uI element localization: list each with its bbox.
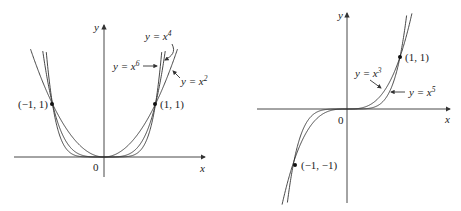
point-label-neg1-neg1: (−1, −1): [301, 159, 338, 172]
point-1-1: [398, 55, 402, 59]
arrow-x3: [370, 80, 381, 88]
origin-label: 0: [93, 161, 99, 173]
point-label-1-1: (1, 1): [405, 51, 429, 64]
arrow-x4: [165, 44, 174, 60]
point-1-1: [153, 102, 157, 106]
label-x4: y = x4: [144, 29, 172, 42]
point-label-neg1-1: (−1, 1): [18, 98, 48, 111]
point-neg1-1: [50, 102, 54, 106]
label-x3: y = x3: [354, 66, 382, 79]
label-x6: y = x6: [112, 59, 140, 72]
x-axis-label: x: [199, 162, 205, 174]
point-neg1-neg1: [293, 163, 297, 167]
label-x5: y = x5: [408, 85, 436, 98]
even-powers-graph: x y 0 (−1, 1) (1, 1) y = x4 y = x6 y = x…: [14, 21, 208, 177]
origin-label: 0: [338, 114, 344, 126]
arrow-x2: [173, 71, 180, 78]
point-label-1-1: (1, 1): [160, 98, 184, 111]
y-axis-label: y: [337, 9, 343, 21]
x-axis-label: x: [444, 113, 450, 125]
power-functions-diagram: x y 0 (−1, 1) (1, 1) y = x4 y = x6 y = x…: [0, 0, 461, 211]
label-x2: y = x2: [180, 74, 208, 87]
odd-powers-graph: x y 0 (1, 1) (−1, −1) y = x3 y = x5: [257, 9, 450, 205]
y-axis-label: y: [93, 21, 99, 33]
